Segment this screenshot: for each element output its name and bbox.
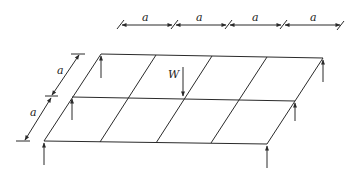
top-dimension: a a a a	[117, 11, 344, 30]
side-label-1: a	[57, 64, 64, 77]
grillage-diagram: W a a a a a a	[0, 0, 359, 179]
span-label-3: a	[252, 11, 259, 24]
span-label-4: a	[310, 11, 317, 24]
side-label-2: a	[30, 106, 37, 119]
point-load: W	[168, 67, 183, 96]
span-label-2: a	[196, 11, 203, 24]
span-label-1: a	[142, 11, 149, 24]
grid-line-bottom	[44, 141, 267, 144]
load-label: W	[168, 68, 181, 81]
